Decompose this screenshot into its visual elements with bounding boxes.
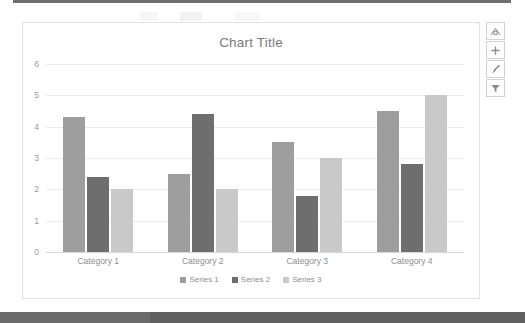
gridline <box>46 252 464 253</box>
legend-item[interactable]: Series 1 <box>180 275 218 284</box>
chart-title[interactable]: Chart Title <box>23 35 479 50</box>
chart-object[interactable]: Chart Title 0123456 Category 1Category 2… <box>22 22 480 299</box>
bar-group <box>255 64 360 252</box>
bar[interactable] <box>111 189 133 252</box>
bar[interactable] <box>192 114 214 252</box>
chart-filters-button[interactable] <box>486 79 505 97</box>
bar[interactable] <box>63 117 85 252</box>
bars <box>46 64 151 252</box>
bar[interactable] <box>168 174 190 252</box>
legend-label: Series 1 <box>189 275 218 284</box>
legend-label: Series 3 <box>292 275 321 284</box>
bar-group <box>360 64 465 252</box>
y-axis-tick-label: 5 <box>34 90 39 100</box>
y-axis-tick-label: 2 <box>34 184 39 194</box>
chart-legend[interactable]: Series 1Series 2Series 3 <box>23 275 479 284</box>
bar[interactable] <box>401 164 423 252</box>
bars <box>255 64 360 252</box>
window-top-bar <box>13 0 511 3</box>
x-axis-label: Category 4 <box>360 256 465 266</box>
chart-elements-button[interactable] <box>486 41 505 59</box>
bar-groups <box>46 64 464 252</box>
y-axis-tick-label: 3 <box>34 153 39 163</box>
chart-styles-button[interactable] <box>486 60 505 78</box>
legend-swatch-icon <box>232 277 238 283</box>
x-axis-label: Category 2 <box>151 256 256 266</box>
bar[interactable] <box>272 142 294 252</box>
legend-label: Series 2 <box>241 275 270 284</box>
legend-swatch-icon <box>283 277 289 283</box>
legend-item[interactable]: Series 3 <box>283 275 321 284</box>
background-sheet-remnant <box>140 12 370 21</box>
plot-area[interactable]: 0123456 <box>46 64 464 252</box>
bar[interactable] <box>320 158 342 252</box>
y-axis-tick-label: 0 <box>34 247 39 257</box>
bar[interactable] <box>425 95 447 252</box>
x-axis-label: Category 1 <box>46 256 151 266</box>
bars <box>151 64 256 252</box>
bars <box>360 64 465 252</box>
y-axis-tick-label: 4 <box>34 122 39 132</box>
chart-layout-button[interactable] <box>486 22 505 40</box>
bar-group <box>46 64 151 252</box>
y-axis-tick-label: 6 <box>34 59 39 69</box>
legend-item[interactable]: Series 2 <box>232 275 270 284</box>
bar[interactable] <box>87 177 109 252</box>
y-axis-tick-label: 1 <box>34 216 39 226</box>
window-bottom-bar <box>0 312 525 323</box>
x-axis-labels[interactable]: Category 1Category 2Category 3Category 4 <box>46 256 464 266</box>
chart-side-toolbar[interactable] <box>486 22 505 97</box>
x-axis-label: Category 3 <box>255 256 360 266</box>
bar[interactable] <box>377 111 399 252</box>
legend-swatch-icon <box>180 277 186 283</box>
bar[interactable] <box>216 189 238 252</box>
bar-group <box>151 64 256 252</box>
bar[interactable] <box>296 196 318 252</box>
